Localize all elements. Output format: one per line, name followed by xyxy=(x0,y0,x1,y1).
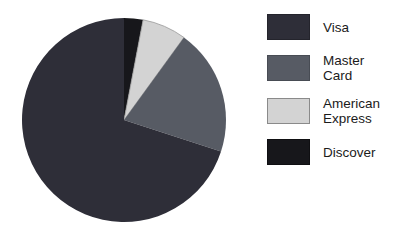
legend: VisaMaster CardAmerican ExpressDiscover xyxy=(267,14,389,165)
legend-label-discover: Discover xyxy=(323,145,376,160)
legend-label-visa: Visa xyxy=(323,20,349,35)
legend-swatch-discover xyxy=(267,139,310,165)
legend-item-discover: Discover xyxy=(267,139,389,165)
legend-item-american-express: American Express xyxy=(267,96,389,126)
legend-swatch-american-express xyxy=(267,98,310,124)
legend-item-visa: Visa xyxy=(267,14,389,40)
legend-swatch-visa xyxy=(267,14,310,40)
legend-item-master-card: Master Card xyxy=(267,53,389,83)
legend-label-master-card: Master Card xyxy=(323,53,389,83)
legend-label-american-express: American Express xyxy=(323,96,389,126)
pie-chart-figure: VisaMaster CardAmerican ExpressDiscover xyxy=(0,0,396,238)
pie-chart xyxy=(0,0,250,238)
legend-swatch-master-card xyxy=(267,55,310,81)
